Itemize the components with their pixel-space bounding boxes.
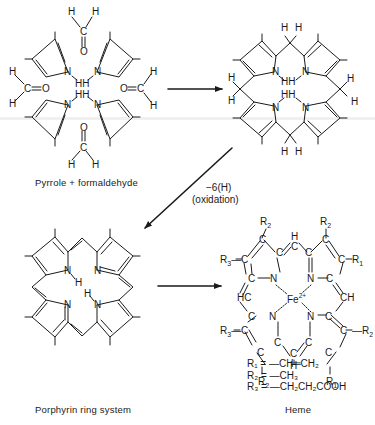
svg-text:N: N bbox=[94, 66, 101, 77]
svg-text:C: C bbox=[80, 26, 87, 37]
svg-text:N: N bbox=[64, 299, 71, 310]
svg-text:H: H bbox=[347, 73, 354, 84]
caption-heme: Heme bbox=[285, 404, 311, 415]
svg-text:O: O bbox=[42, 83, 50, 94]
svg-text:C: C bbox=[340, 325, 347, 336]
svg-text:N: N bbox=[307, 311, 314, 322]
svg-text:H: H bbox=[9, 98, 16, 109]
svg-text:(oxidation): (oxidation) bbox=[192, 194, 239, 205]
svg-text:C: C bbox=[322, 234, 329, 245]
svg-text:N: N bbox=[64, 99, 71, 110]
svg-text:N: N bbox=[270, 273, 277, 284]
svg-text:H: H bbox=[92, 159, 99, 170]
porphyrinogen-atom-labels: N N N N HH HH H H H H H H H H bbox=[228, 22, 358, 157]
svg-text:N: N bbox=[272, 102, 279, 113]
svg-text:O: O bbox=[120, 83, 128, 94]
svg-text:H: H bbox=[281, 22, 288, 33]
svg-text:R1: R1 bbox=[352, 254, 363, 267]
heme-substituent-legend: R₁ = —CH═CH₂ R₂ = —CH₃ R₃ = —CH₂CH₂COOH bbox=[247, 358, 346, 393]
svg-text:HH: HH bbox=[75, 78, 89, 89]
legend-r1: R₁ = —CH═CH₂ bbox=[247, 358, 346, 370]
porphyrin-structure bbox=[25, 229, 140, 345]
svg-text:O: O bbox=[80, 122, 88, 133]
svg-text:C: C bbox=[325, 347, 332, 358]
svg-text:N: N bbox=[302, 66, 309, 77]
svg-text:R2: R2 bbox=[260, 216, 271, 229]
oxidation-label: −6(H) (oxidation) bbox=[192, 182, 239, 205]
svg-text:R3—: R3— bbox=[220, 254, 241, 267]
svg-text:C: C bbox=[248, 273, 255, 284]
svg-text:HC: HC bbox=[237, 292, 251, 303]
svg-text:N: N bbox=[307, 273, 314, 284]
svg-text:N: N bbox=[272, 66, 279, 77]
svg-text:N: N bbox=[94, 299, 101, 310]
svg-text:C: C bbox=[24, 83, 31, 94]
svg-text:N: N bbox=[94, 99, 101, 110]
svg-text:C: C bbox=[325, 311, 332, 322]
svg-text:N: N bbox=[269, 311, 276, 322]
svg-text:—R2: —R2 bbox=[352, 325, 373, 338]
svg-text:CH: CH bbox=[340, 292, 354, 303]
svg-text:C: C bbox=[326, 273, 333, 284]
svg-text:H: H bbox=[228, 95, 235, 106]
svg-text:HH: HH bbox=[281, 76, 295, 87]
svg-text:C: C bbox=[241, 254, 248, 265]
svg-text:H: H bbox=[228, 72, 235, 83]
caption-porphyrin: Porphyrin ring system bbox=[35, 404, 131, 415]
svg-text:N: N bbox=[64, 66, 71, 77]
svg-text:H: H bbox=[295, 22, 302, 33]
porphyrin-atom-labels: N N N N H H bbox=[64, 265, 101, 310]
svg-text:C: C bbox=[137, 83, 144, 94]
svg-text:H: H bbox=[68, 159, 75, 170]
svg-text:R3—: R3— bbox=[220, 325, 241, 338]
svg-text:N: N bbox=[302, 102, 309, 113]
svg-text:H: H bbox=[68, 6, 75, 17]
svg-text:HH: HH bbox=[75, 89, 89, 100]
svg-text:C: C bbox=[259, 234, 266, 245]
svg-text:C: C bbox=[338, 254, 345, 265]
svg-text:−6(H): −6(H) bbox=[206, 182, 231, 193]
svg-text:C: C bbox=[291, 241, 298, 252]
svg-text:H: H bbox=[351, 96, 358, 107]
svg-text:C: C bbox=[276, 247, 283, 258]
svg-text:H: H bbox=[9, 66, 16, 77]
svg-text:C: C bbox=[305, 247, 312, 258]
svg-text:H: H bbox=[75, 277, 82, 288]
svg-text:H: H bbox=[150, 66, 157, 77]
svg-text:H: H bbox=[295, 146, 302, 157]
svg-text:H: H bbox=[92, 6, 99, 17]
svg-text:H: H bbox=[84, 288, 91, 299]
svg-text:O: O bbox=[80, 46, 88, 57]
caption-pyrrole-formaldehyde: Pyrrole + formaldehyde bbox=[35, 177, 138, 188]
svg-text:N: N bbox=[94, 265, 101, 276]
pyrrole-atom-labels: N N N N HH HH H H C O O C H H H H C O O … bbox=[9, 6, 157, 170]
svg-text:HH: HH bbox=[281, 89, 295, 100]
svg-text:C: C bbox=[274, 337, 281, 348]
svg-text:Fe2+: Fe2+ bbox=[287, 292, 306, 305]
svg-text:R2: R2 bbox=[320, 216, 331, 229]
svg-text:H: H bbox=[281, 146, 288, 157]
svg-text:C: C bbox=[305, 337, 312, 348]
legend-r3: R₃ = —CH₂CH₂COOH bbox=[247, 381, 346, 393]
svg-text:C: C bbox=[257, 347, 264, 358]
svg-text:N: N bbox=[64, 265, 71, 276]
svg-text:C: C bbox=[80, 142, 87, 153]
svg-text:C: C bbox=[241, 325, 248, 336]
svg-text:C: C bbox=[248, 311, 255, 322]
legend-r2: R₂ = —CH₃ bbox=[247, 370, 346, 382]
svg-text:H: H bbox=[150, 100, 157, 111]
